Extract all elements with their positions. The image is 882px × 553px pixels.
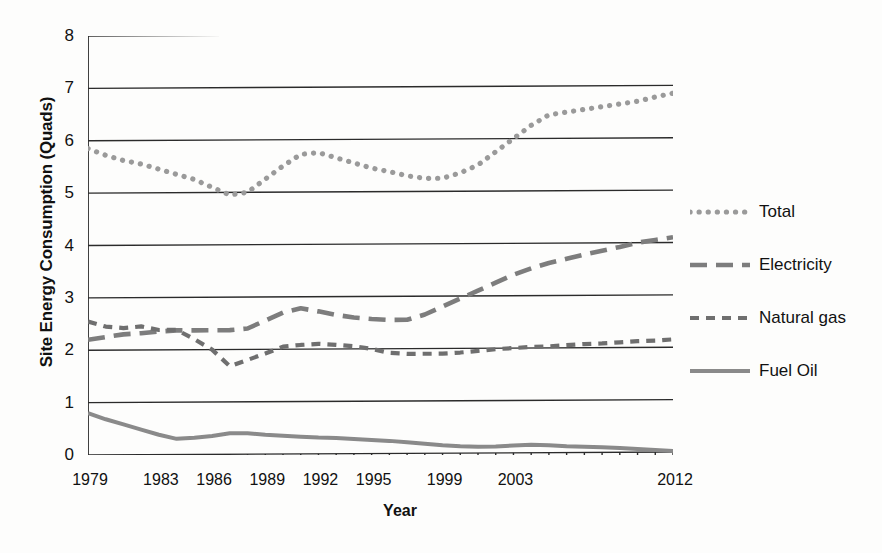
chart-legend: TotalElectricityNatural gasFuel Oil (690, 185, 880, 397)
series-line-natural-gas (88, 321, 673, 366)
x-tick-label: 2003 (498, 472, 534, 488)
series-line-electricity (88, 237, 673, 340)
legend-label: Electricity (759, 255, 832, 275)
legend-swatch-icon (690, 311, 750, 325)
line-chart-figure: Site Energy Consumption (Quads) 01234567… (0, 0, 882, 553)
legend-entry-natural-gas[interactable]: Natural gas (690, 291, 880, 344)
legend-label: Total (759, 202, 795, 222)
x-tick-label: 1989 (249, 472, 285, 488)
gridline-horizontal (88, 243, 673, 246)
y-tick-label: 0 (48, 446, 74, 463)
legend-swatch-icon (690, 205, 750, 219)
legend-entry-electricity[interactable]: Electricity (690, 238, 880, 291)
gridline-horizontal (88, 295, 673, 298)
y-tick-label: 7 (48, 79, 74, 96)
x-tick-label: 1983 (143, 472, 179, 488)
x-tick-label: 1995 (356, 472, 392, 488)
plot-area (88, 36, 673, 455)
x-axis-title: Year (300, 502, 500, 520)
y-tick-label: 8 (48, 27, 74, 44)
series-line-fuel-oil (88, 413, 673, 451)
series-line-total (88, 93, 673, 195)
y-tick-label: 1 (48, 394, 74, 411)
legend-label: Fuel Oil (759, 361, 818, 381)
legend-label: Natural gas (759, 308, 846, 328)
y-tick-label: 6 (48, 132, 74, 149)
x-tick-label: 1992 (303, 472, 339, 488)
legend-swatch-icon (690, 364, 750, 378)
legend-entry-fuel-oil[interactable]: Fuel Oil (690, 344, 880, 397)
x-tick-label: 1999 (427, 472, 463, 488)
legend-swatch-icon (690, 258, 750, 272)
x-tick-label: 2012 (657, 472, 693, 488)
y-tick-label: 5 (48, 184, 74, 201)
gridline-horizontal (88, 452, 673, 455)
y-tick-label: 4 (48, 237, 74, 254)
y-tick-label: 3 (48, 289, 74, 306)
x-tick-label: 1986 (196, 472, 232, 488)
y-tick-label: 2 (48, 341, 74, 358)
x-tick-label: 1979 (72, 472, 108, 488)
gridline-horizontal (88, 138, 673, 141)
legend-entry-total[interactable]: Total (690, 185, 880, 238)
plot-svg (88, 36, 673, 455)
gridline-horizontal (88, 400, 673, 403)
gridline-horizontal (88, 190, 673, 193)
gridline-horizontal (88, 85, 673, 88)
